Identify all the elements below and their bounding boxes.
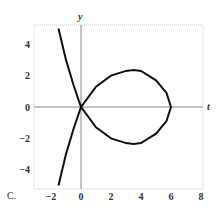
x-tick-label: 8 <box>199 191 204 202</box>
x-tick-label: −2 <box>46 191 57 202</box>
x-tick-label: 4 <box>139 191 144 202</box>
x-tick-label: 0 <box>79 191 84 202</box>
chart: −202468 420−2−4 y t C. <box>0 0 221 212</box>
y-tick-label: 4 <box>25 39 30 50</box>
figure-label: C. <box>7 190 16 201</box>
y-axis-label: y <box>77 11 83 22</box>
y-tick-label: −2 <box>19 133 30 144</box>
y-tick-label: −4 <box>19 164 30 175</box>
y-tick-label: 0 <box>25 102 30 113</box>
y-tick-label: 2 <box>25 70 30 81</box>
x-tick-label: 2 <box>109 191 114 202</box>
x-axis-label: t <box>207 101 211 112</box>
y-tick-labels: 420−2−4 <box>19 39 30 176</box>
x-tick-labels: −202468 <box>46 191 204 202</box>
x-tick-label: 6 <box>169 191 174 202</box>
